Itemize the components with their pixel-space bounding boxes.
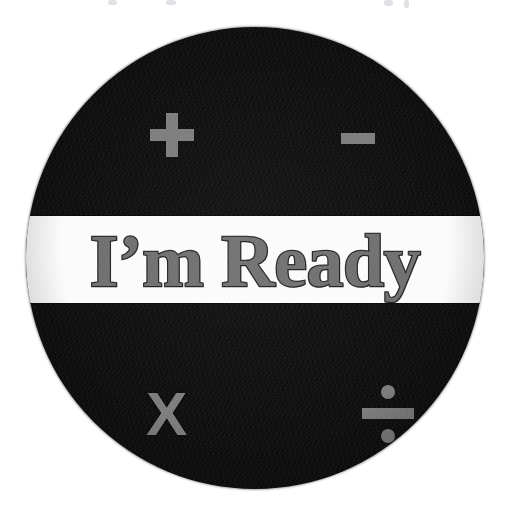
- scan-artifact-top-text: [0, 0, 505, 10]
- calculator-badge: I’m Ready X: [26, 27, 484, 489]
- badge-canvas: I’m Ready X: [0, 0, 505, 528]
- plus-icon: [150, 113, 194, 157]
- minus-icon: [341, 133, 375, 144]
- multiply-icon: X: [146, 383, 187, 445]
- banner: I’m Ready: [26, 216, 484, 303]
- banner-text: I’m Ready: [90, 224, 421, 298]
- divide-icon: [362, 385, 414, 443]
